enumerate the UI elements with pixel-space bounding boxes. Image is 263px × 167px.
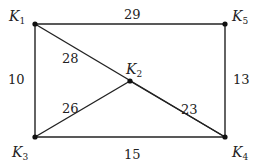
node-k3 [32,134,37,139]
node-k5 [222,21,227,26]
node-k1 [32,21,37,26]
edge-weight-label: 13 [233,72,250,87]
edge-weight-label: 23 [181,102,198,117]
edge-k3-k2 [35,81,130,137]
node-label-k4: K4 [231,144,248,162]
edge-weight-label: 28 [62,51,79,66]
node-label-k2: K2 [125,61,142,79]
graph-diagram: 29101315282623 K1K5K2K3K4 [0,0,263,167]
node-label-k5: K5 [231,8,248,26]
edge-weight-label: 15 [124,147,141,162]
edge-k2-k4 [130,81,225,137]
edge-weight-label: 29 [124,7,141,22]
node-k4 [222,134,227,139]
node-labels: K1K5K2K3K4 [8,8,248,162]
node-k2 [127,78,132,83]
node-label-k1: K1 [8,8,25,26]
node-label-k3: K3 [11,144,28,162]
edge-weight-label: 10 [8,72,25,87]
edge-weight-label: 26 [62,101,79,116]
